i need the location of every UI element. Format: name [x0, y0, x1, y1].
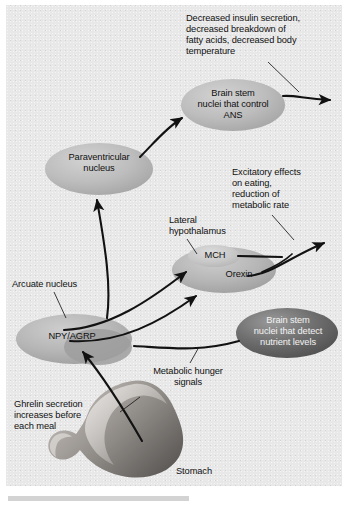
- shapes-layer: [0, 0, 342, 513]
- annotation-stomach: Stomach: [176, 466, 246, 477]
- annotation-lateral-hypothalamus: Lateral hypothalamus: [169, 215, 259, 237]
- annotation-metabolic-hunger-signals: Metabolic hunger signals: [136, 366, 240, 388]
- annotation-ghrelin-secretion: Ghrelin secretion increases before each …: [14, 399, 134, 432]
- annotation-arcuate-nucleus: Arcuate nucleus: [12, 279, 122, 290]
- node-arcuate-lobe: [64, 329, 132, 365]
- annotation-excitatory-effects: Excitatory effects on eating, reduction …: [232, 167, 338, 211]
- annotation-decreased-effects: Decreased insulin secretion, decreased b…: [186, 13, 338, 57]
- node-brain-stem-nutrient[interactable]: [236, 308, 338, 358]
- node-brain-stem-ans[interactable]: [181, 79, 285, 131]
- bottom-divider-rule: [8, 496, 189, 501]
- node-paraventricular-nucleus[interactable]: [45, 143, 153, 195]
- node-mch[interactable]: [188, 245, 240, 267]
- diagram-figure: Decreased insulin secretion, decreased b…: [0, 0, 342, 513]
